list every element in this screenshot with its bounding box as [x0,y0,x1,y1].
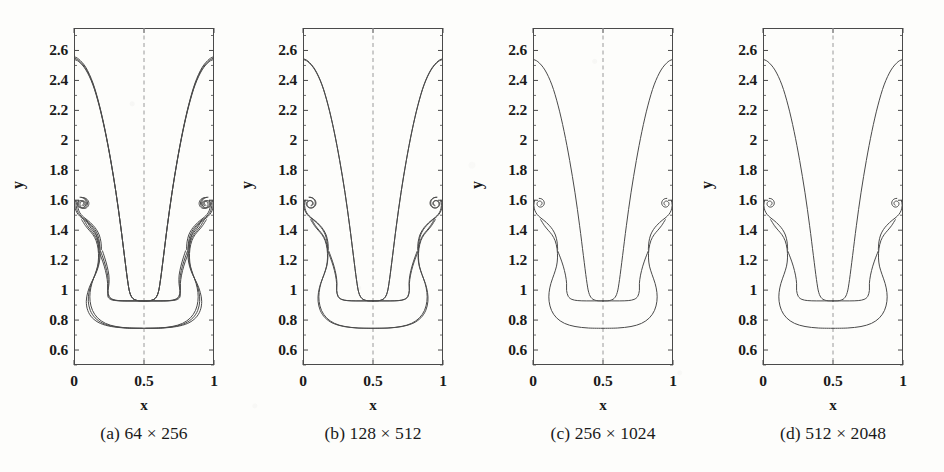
y-tick-label: 1.2 [727,251,757,269]
plot-frame-d [763,28,903,365]
y-tick-label: 2.6 [727,41,757,59]
panel-d: 0.60.811.21.41.61.822.22.42.6y00.51x(d) … [0,0,944,472]
y-tick-label: 1.8 [727,161,757,179]
panel-caption-d: (d) 512 × 2048 [780,423,886,444]
x-axis-title: x [829,397,837,414]
y-tick-label: 1 [727,281,757,299]
x-tick-label: 0.5 [823,372,842,390]
y-tick-label: 2.2 [727,101,757,119]
x-tick-label: 1 [899,372,907,390]
y-tick-label: 2.4 [727,71,757,89]
y-tick-label: 2 [727,131,757,149]
y-tick-label: 1.4 [727,221,757,239]
y-tick-label: 0.8 [727,311,757,329]
figure-grid-convergence-panels: 0.60.811.21.41.61.822.22.42.6y00.51x(a) … [0,0,944,472]
y-axis-title: y [698,175,716,195]
y-tick-label: 0.6 [727,341,757,359]
x-tick-label: 0 [759,372,767,390]
y-tick-label: 1.6 [727,191,757,209]
